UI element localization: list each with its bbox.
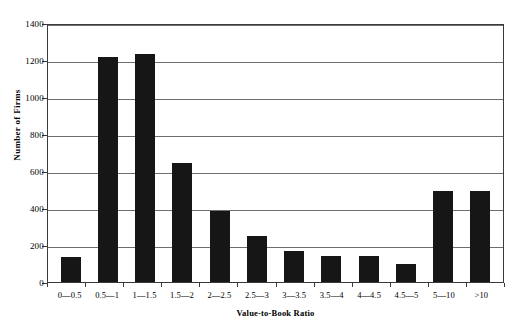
x-axis-tick: [161, 283, 162, 287]
x-axis-tick-label: 0.5—1: [88, 290, 125, 304]
bar-slot: [52, 25, 89, 282]
x-axis-tick-label: 3—3.5: [276, 290, 313, 304]
y-axis-tick-label: 1400: [2, 20, 44, 29]
bar-slot: [201, 25, 238, 282]
y-axis-tick-labels: 0200400600800100012001400: [0, 0, 44, 334]
value-to-book-ratio-histogram: 0200400600800100012001400 Number of Firm…: [0, 0, 521, 334]
y-axis-tick-label: 1200: [2, 57, 44, 66]
x-axis-tick-label: 0—0.5: [51, 290, 88, 304]
x-axis-tick: [123, 283, 124, 287]
plot-area: [47, 24, 504, 283]
x-axis-tick-label: 3.5—4: [313, 290, 350, 304]
bar-slot: [238, 25, 275, 282]
bar-slot: [164, 25, 201, 282]
bar-slot: [350, 25, 387, 282]
x-axis-tick-label: 1.5—2: [163, 290, 200, 304]
bar: [396, 264, 416, 283]
bar: [470, 191, 490, 282]
x-axis-tick-label: 2.5—3: [238, 290, 275, 304]
x-axis-tick-label: 4.5—5: [388, 290, 425, 304]
bar-series: [48, 25, 503, 282]
x-axis-tick-label: 5—10: [425, 290, 462, 304]
bar: [321, 256, 341, 282]
y-axis-tick-label: 600: [2, 168, 44, 177]
x-axis-title: Value-to-Book Ratio: [47, 308, 504, 318]
bar-slot: [387, 25, 424, 282]
x-axis-tick: [390, 283, 391, 287]
x-axis-tick-label: 1—1.5: [126, 290, 163, 304]
x-axis-tick-label: >10: [463, 290, 500, 304]
bar: [135, 54, 155, 282]
bar-slot: [425, 25, 462, 282]
x-axis-tick: [199, 283, 200, 287]
x-axis-tick: [352, 283, 353, 287]
bar-slot: [127, 25, 164, 282]
x-axis-tick: [314, 283, 315, 287]
x-axis-tick: [428, 283, 429, 287]
x-axis-tick: [237, 283, 238, 287]
x-axis-ticks: [47, 283, 504, 288]
bar: [61, 257, 81, 282]
x-axis-tick: [504, 283, 505, 287]
bar: [433, 191, 453, 282]
x-axis-tick: [47, 283, 48, 287]
bar: [210, 211, 230, 282]
y-axis-tick-label: 200: [2, 242, 44, 251]
bar-slot: [276, 25, 313, 282]
x-axis-tick-label: 2—2.5: [201, 290, 238, 304]
x-axis-tick: [85, 283, 86, 287]
x-axis-tick-labels: 0—0.50.5—11—1.51.5—22—2.52.5—33—3.53.5—4…: [47, 290, 504, 304]
x-axis-tick: [466, 283, 467, 287]
bar: [98, 57, 118, 282]
x-axis-tick-label: 4—4.5: [350, 290, 387, 304]
x-axis-tick: [276, 283, 277, 287]
bar: [359, 256, 379, 282]
y-axis-tick-label: 1000: [2, 94, 44, 103]
bar-slot: [313, 25, 350, 282]
y-axis-tick-label: 0: [2, 279, 44, 288]
bar-slot: [462, 25, 499, 282]
bar: [284, 251, 304, 282]
y-axis-title: Number of Firms: [12, 60, 22, 190]
bar: [247, 236, 267, 282]
y-axis-tick-label: 400: [2, 205, 44, 214]
bar: [172, 163, 192, 282]
y-axis-tick-label: 800: [2, 131, 44, 140]
bar-slot: [89, 25, 126, 282]
